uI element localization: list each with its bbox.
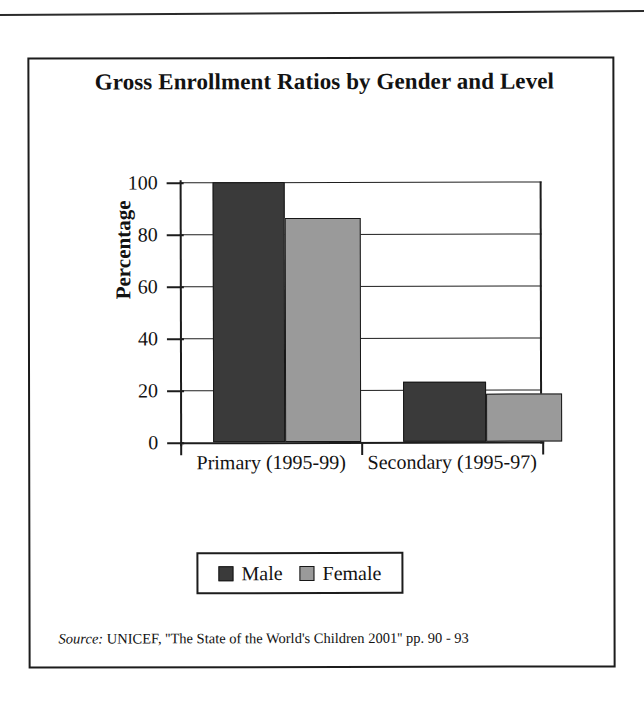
- page-top-rule: [0, 10, 644, 16]
- source-citation: UNICEF, ''The State of the World's Child…: [103, 630, 469, 647]
- figure-frame: Gross Enrollment Ratios by Gender and Le…: [27, 56, 615, 668]
- x-category-label-primary: Primary (1995-99): [171, 451, 371, 473]
- male-swatch-icon: [218, 566, 233, 581]
- source-keyword: Source:: [59, 630, 104, 646]
- chart-legend: Male Female: [196, 552, 403, 594]
- y-tick-label-40: 40: [98, 328, 158, 348]
- bar-primary-male[interactable]: [213, 182, 286, 442]
- bar-secondary-male[interactable]: [403, 382, 486, 442]
- bar-secondary-female[interactable]: [486, 393, 562, 441]
- y-tick-label-60: 60: [98, 276, 158, 296]
- source-note: Source: UNICEF, ''The State of the World…: [59, 629, 599, 648]
- y-tick-label-20: 20: [98, 380, 158, 400]
- legend-item-female[interactable]: Female: [300, 563, 382, 583]
- y-tick-label-100: 100: [98, 172, 158, 192]
- female-swatch-icon: [300, 566, 315, 581]
- bar-primary-female[interactable]: [285, 218, 361, 442]
- legend-label-male: Male: [241, 563, 282, 583]
- legend-label-female: Female: [323, 563, 382, 583]
- x-category-label-secondary: Secondary (1995-97): [352, 451, 552, 473]
- y-tick-label-0: 0: [98, 432, 158, 452]
- plot-wrapper: Percentage 0 20 40 60 80 100: [29, 58, 617, 670]
- plot-area: [180, 182, 543, 443]
- y-tick-label-80: 80: [98, 224, 158, 244]
- legend-item-male[interactable]: Male: [218, 563, 282, 583]
